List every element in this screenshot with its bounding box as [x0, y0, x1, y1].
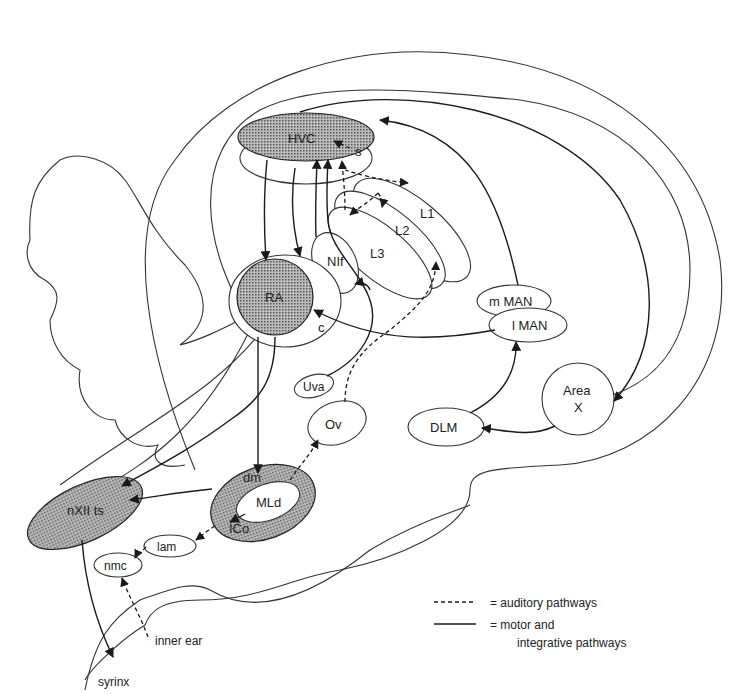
lman-label: l MAN — [512, 318, 547, 333]
area-x-label-1: Area — [563, 383, 591, 398]
inner-ear-label: inner ear — [155, 634, 202, 648]
lam-label: lam — [157, 540, 176, 554]
mman-label: m MAN — [489, 294, 532, 309]
dlm-label: DLM — [430, 420, 457, 435]
cerebellum-outline — [27, 156, 240, 466]
legend-solid-label-2: integrative pathways — [517, 636, 626, 650]
ra-label: RA — [265, 290, 283, 305]
l2-label: L2 — [395, 223, 409, 238]
brainstem-outline — [60, 320, 270, 490]
mld-label: MLd — [256, 495, 281, 510]
l3-label: L3 — [370, 246, 384, 261]
hvc-label: HVC — [288, 131, 315, 146]
nif-label: NIf — [327, 254, 344, 269]
legend-dashed-label: = auditory pathways — [490, 596, 597, 610]
ov-label: Ov — [325, 417, 342, 432]
syrinx-label: syrinx — [98, 675, 129, 689]
uva-label: Uva — [303, 380, 325, 394]
pathway-ico-lam — [196, 526, 215, 540]
s-label: s — [355, 144, 362, 159]
legend-solid-label-1: = motor and — [490, 618, 554, 632]
l1-label: L1 — [420, 206, 434, 221]
legend: = auditory pathways = motor and integrat… — [434, 596, 626, 650]
nxii-ts-label: nXII ts — [67, 503, 104, 518]
nmc-label: nmc — [104, 559, 127, 573]
pathway-lman-ra — [314, 310, 495, 337]
pathway-areax-dlm — [482, 426, 555, 432]
c-label: c — [318, 320, 325, 335]
song-system-diagram: HVC s L1 L2 L3 NIf RA c m MAN l MAN Area… — [0, 0, 741, 694]
brain-outline — [85, 52, 722, 680]
pathway-lam-nmc — [135, 547, 146, 558]
area-x-nucleus[interactable] — [542, 363, 614, 435]
pathway-dlm-lman — [470, 342, 516, 413]
area-x-label-2: X — [574, 400, 583, 415]
pathway-inner-ear-nmc — [122, 578, 148, 637]
ico-label: ICo — [229, 521, 249, 536]
